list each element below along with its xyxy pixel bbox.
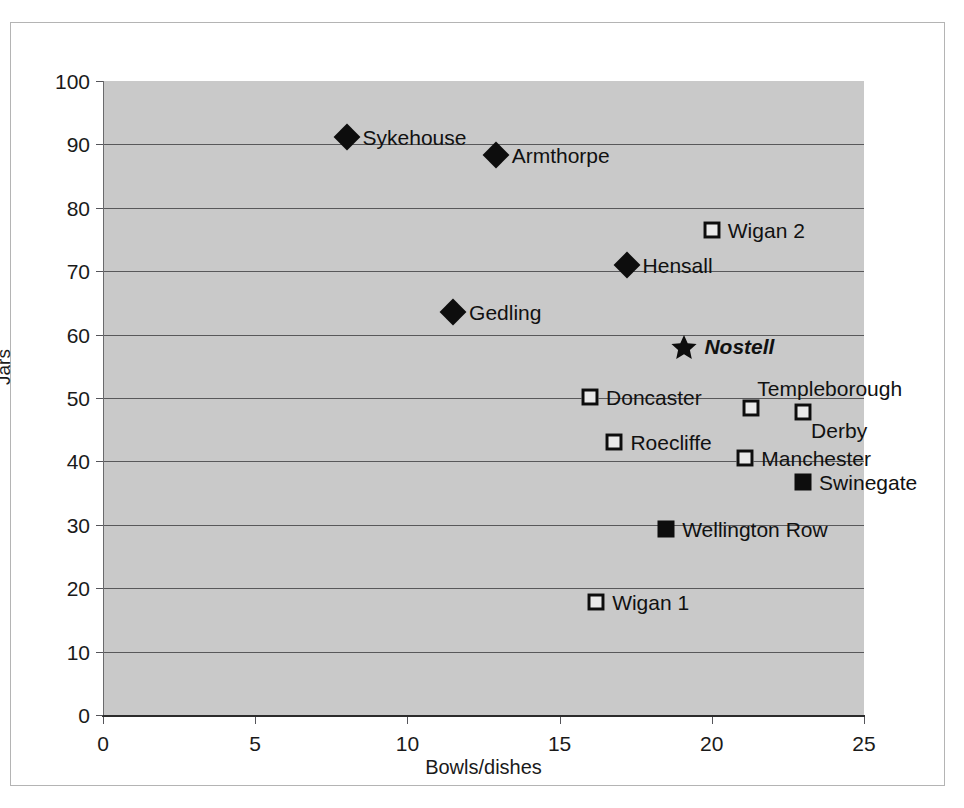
gridline-y-10 (103, 652, 864, 653)
y-tick-label-20: 20 (67, 578, 90, 599)
y-tick-mark-10 (96, 652, 103, 653)
open-square-marker-icon (743, 399, 760, 416)
open-square-marker-icon (703, 221, 720, 238)
data-point-label-derby: Derby (811, 420, 867, 441)
data-point-label-swinegate: Swinegate (819, 472, 917, 493)
open-square-marker-icon (737, 450, 754, 467)
y-tick-label-100: 100 (55, 71, 90, 92)
y-tick-mark-80 (96, 208, 103, 209)
x-axis-title: Bowls/dishes (103, 757, 864, 777)
gridline-y-80 (103, 208, 864, 209)
x-tick-label-5: 5 (215, 733, 295, 754)
x-tick-label-10: 10 (367, 733, 447, 754)
y-tick-mark-30 (96, 525, 103, 526)
y-tick-mark-0 (96, 715, 103, 716)
x-tick-label-15: 15 (520, 733, 600, 754)
y-tick-mark-90 (96, 144, 103, 145)
open-square-marker-icon (606, 434, 623, 451)
data-point-label-armthorpe: Armthorpe (512, 145, 610, 166)
data-point-label-sykehouse: Sykehouse (363, 127, 467, 148)
open-square-marker-icon (795, 403, 812, 420)
data-point-label-templeborough: Templeborough (757, 378, 902, 399)
y-tick-mark-40 (96, 461, 103, 462)
gridline-y-20 (103, 588, 864, 589)
open-square-marker-icon (588, 594, 605, 611)
plot-area (103, 81, 864, 715)
data-point-label-manchester: Manchester (761, 448, 871, 469)
x-tick-mark-0 (103, 717, 104, 724)
y-tick-label-30: 30 (67, 515, 90, 536)
y-tick-label-90: 90 (67, 134, 90, 155)
y-tick-label-70: 70 (67, 261, 90, 282)
y-tick-label-10: 10 (67, 642, 90, 663)
data-point-label-wigan-2: Wigan 2 (728, 220, 805, 241)
data-point-label-doncaster: Doncaster (606, 387, 702, 408)
data-point-label-nostell: Nostell (704, 336, 774, 357)
x-tick-mark-20 (712, 717, 713, 724)
y-tick-mark-70 (96, 271, 103, 272)
x-tick-label-20: 20 (672, 733, 752, 754)
star-marker-icon (671, 334, 697, 360)
y-tick-mark-20 (96, 588, 103, 589)
x-tick-label-0: 0 (63, 733, 143, 754)
x-tick-mark-10 (407, 717, 408, 724)
x-tick-mark-15 (560, 717, 561, 724)
y-tick-label-60: 60 (67, 325, 90, 346)
filled-square-marker-icon (795, 474, 812, 491)
y-axis-title: Jars (0, 349, 13, 385)
scatter-chart-figure: Jars Bowls/dishes 0102030405060708090100… (0, 0, 964, 808)
data-point-label-roecliffe: Roecliffe (630, 432, 711, 453)
data-point-label-hensall: Hensall (643, 255, 713, 276)
x-tick-mark-25 (864, 717, 865, 724)
data-point-label-gedling: Gedling (469, 302, 541, 323)
x-tick-label-25: 25 (824, 733, 904, 754)
gridline-y-70 (103, 271, 864, 272)
open-square-marker-icon (582, 388, 599, 405)
gridline-y-90 (103, 144, 864, 145)
y-tick-label-50: 50 (67, 388, 90, 409)
y-tick-mark-50 (96, 398, 103, 399)
y-tick-label-40: 40 (67, 451, 90, 472)
y-axis-line (103, 81, 104, 716)
data-point-label-wigan-1: Wigan 1 (612, 592, 689, 613)
y-tick-label-80: 80 (67, 198, 90, 219)
data-point-label-wellington-row: Wellington Row (682, 519, 828, 540)
x-tick-mark-5 (255, 717, 256, 724)
filled-square-marker-icon (658, 521, 675, 538)
y-tick-label-0: 0 (78, 705, 90, 726)
y-tick-mark-100 (96, 81, 103, 82)
y-tick-mark-60 (96, 335, 103, 336)
x-axis-line (102, 715, 865, 717)
